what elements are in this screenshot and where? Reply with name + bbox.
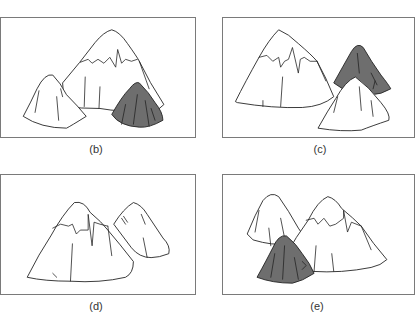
- caption-e: (e): [297, 300, 337, 312]
- panel-c-illustration: [223, 18, 414, 137]
- panel-d-illustration: [1, 175, 195, 294]
- panel-c: [222, 17, 415, 138]
- panel-b: [0, 17, 196, 138]
- caption-c: (c): [300, 143, 340, 155]
- panel-b-illustration: [1, 18, 195, 137]
- panel-d: [0, 174, 196, 295]
- large-mountain: [235, 30, 333, 108]
- panel-e: [222, 174, 415, 295]
- caption-d: (d): [76, 300, 116, 312]
- caption-b: (b): [76, 143, 116, 155]
- large-mountain: [27, 202, 133, 281]
- small-white-peak-back: [247, 194, 303, 245]
- panel-e-illustration: [223, 175, 414, 294]
